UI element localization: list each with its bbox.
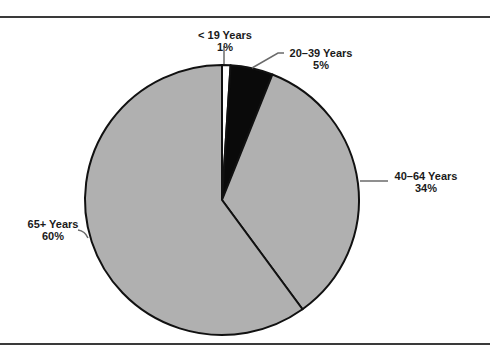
label-under19-name: < 19 Years — [198, 29, 252, 41]
label-under19: < 19 Years 1% — [198, 29, 252, 53]
pie-slices — [85, 65, 359, 335]
label-65plus: 65+ Years 60% — [24, 218, 82, 242]
leader-20-39 — [252, 53, 284, 68]
label-65plus-pct: 60% — [24, 230, 82, 242]
label-65plus-name: 65+ Years — [24, 218, 82, 230]
label-40-64: 40–64 Years 34% — [392, 170, 460, 194]
label-20-39-name: 20–39 Years — [287, 47, 355, 59]
label-40-64-pct: 34% — [392, 182, 460, 194]
label-20-39: 20–39 Years 5% — [287, 47, 355, 71]
label-20-39-pct: 5% — [287, 59, 355, 71]
label-40-64-name: 40–64 Years — [392, 170, 460, 182]
label-under19-pct: 1% — [198, 41, 252, 53]
